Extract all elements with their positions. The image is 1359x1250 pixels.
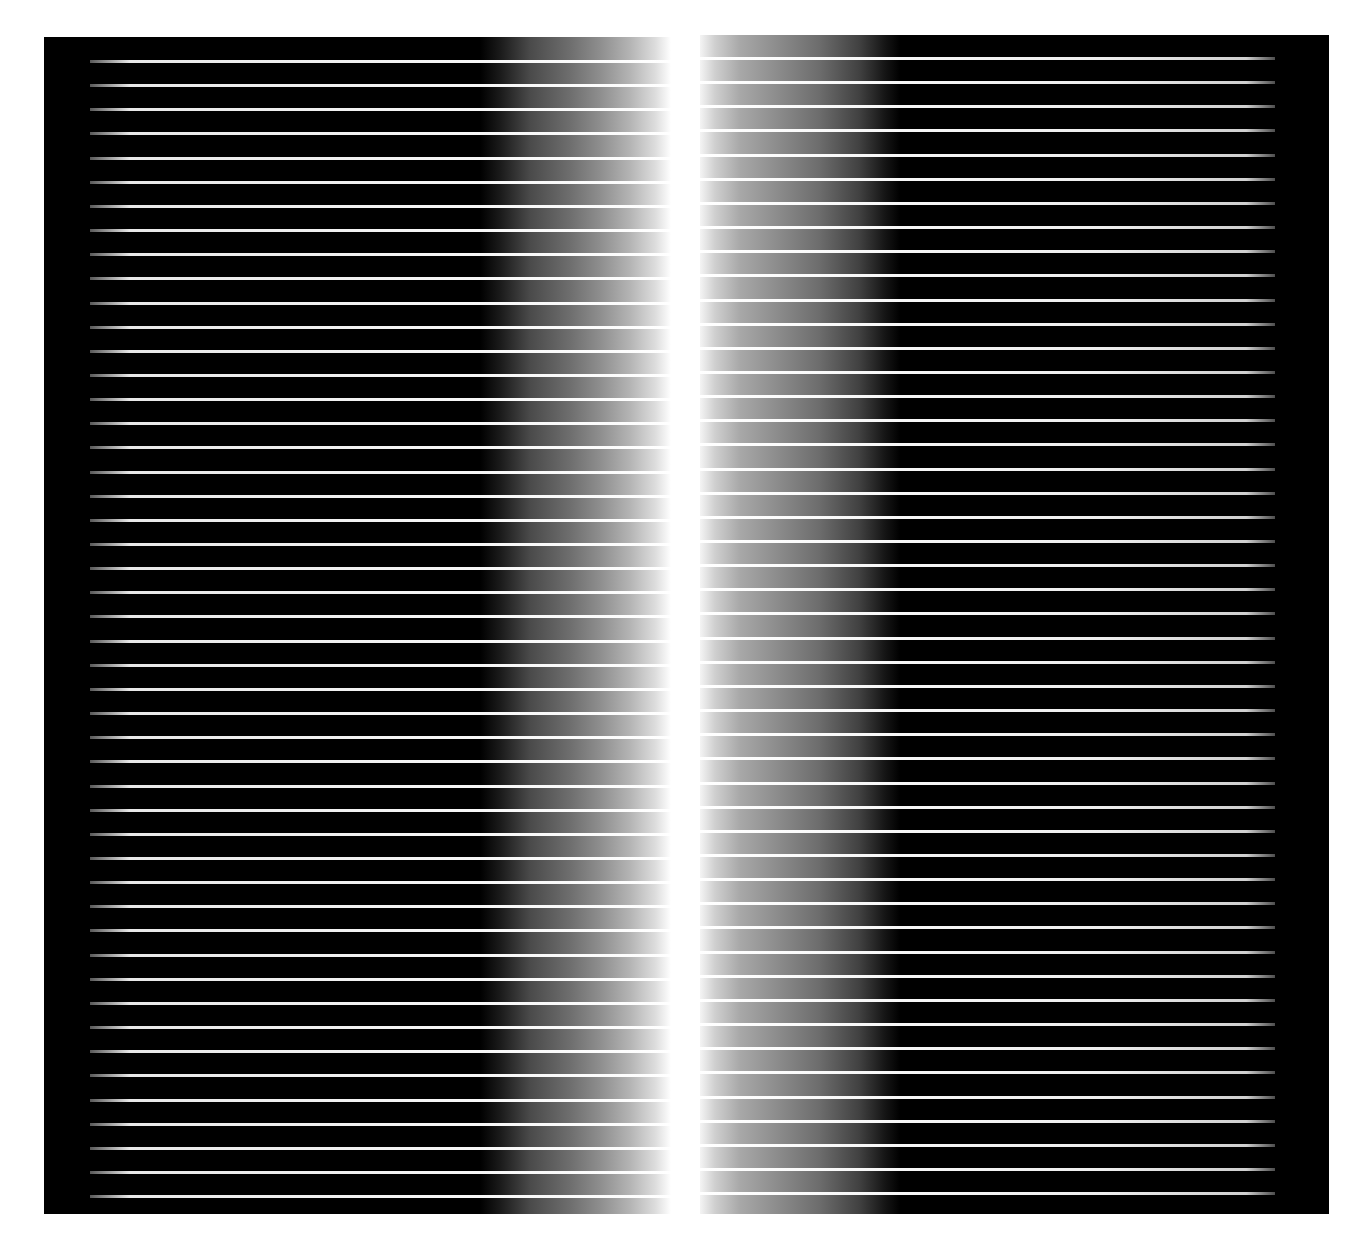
stripe-line — [700, 540, 1275, 543]
stripe-line — [90, 1171, 671, 1174]
stripe-line — [90, 640, 671, 643]
stripe-line — [90, 857, 671, 860]
stripe-line — [90, 350, 671, 353]
stripe-line — [90, 326, 671, 329]
stripe-line — [700, 154, 1275, 157]
stripe-line — [90, 471, 671, 474]
stripe-line — [90, 905, 671, 908]
stripe-line — [700, 105, 1275, 108]
stripe-line — [700, 588, 1275, 591]
stripe-line — [700, 999, 1275, 1002]
stripe-line — [90, 881, 671, 884]
stripe-line — [90, 495, 671, 498]
stripe-line — [700, 178, 1275, 181]
stripe-line — [700, 250, 1275, 253]
stripe-line — [90, 374, 671, 377]
stripe-line — [700, 1144, 1275, 1147]
stripe-line — [90, 1002, 671, 1005]
stripe-line — [700, 878, 1275, 881]
stripe-line — [700, 661, 1275, 664]
stripe-line — [90, 785, 671, 788]
stripe-line — [700, 1071, 1275, 1074]
stripe-line — [90, 519, 671, 522]
stripe-line — [90, 712, 671, 715]
stripe-line — [90, 809, 671, 812]
stripe-line — [90, 688, 671, 691]
stripe-line — [90, 1026, 671, 1029]
stripe-line — [700, 854, 1275, 857]
stripe-line — [90, 253, 671, 256]
stripe-line — [90, 108, 671, 111]
stripe-line — [700, 612, 1275, 615]
stripe-line — [700, 81, 1275, 84]
stripe-line — [700, 782, 1275, 785]
stripe-line — [700, 57, 1275, 60]
stripe-line — [90, 157, 671, 160]
stripe-line — [90, 181, 671, 184]
stripe-line — [700, 975, 1275, 978]
stripe-line — [90, 1074, 671, 1077]
left-striped-panel — [44, 37, 671, 1214]
stripe-line — [90, 1195, 671, 1198]
stripe-line — [700, 1047, 1275, 1050]
stripe-line — [90, 398, 671, 401]
stripe-line — [700, 637, 1275, 640]
stripe-line — [700, 926, 1275, 929]
right-striped-panel — [700, 35, 1329, 1214]
stripe-line — [90, 1099, 671, 1102]
stripe-line — [700, 395, 1275, 398]
stripe-line — [90, 736, 671, 739]
stripe-line — [90, 567, 671, 570]
stripe-line — [90, 543, 671, 546]
stripe-line — [700, 1192, 1275, 1195]
stripe-line — [90, 615, 671, 618]
stripe-line — [700, 419, 1275, 422]
stripe-line — [90, 446, 671, 449]
stripe-line — [700, 443, 1275, 446]
stripe-line — [90, 60, 671, 63]
stripe-line — [90, 954, 671, 957]
stripe-line — [90, 229, 671, 232]
stripe-line — [90, 277, 671, 280]
stripe-line — [700, 830, 1275, 833]
stripe-line — [700, 564, 1275, 567]
stripe-line — [90, 1123, 671, 1126]
stripe-line — [90, 978, 671, 981]
stripe-line — [700, 492, 1275, 495]
stripe-line — [700, 323, 1275, 326]
stripe-line — [700, 299, 1275, 302]
stripe-line — [700, 347, 1275, 350]
stripe-line — [700, 226, 1275, 229]
stripe-line — [700, 757, 1275, 760]
stripe-line — [700, 1096, 1275, 1099]
stripe-line — [90, 929, 671, 932]
stripe-line — [700, 951, 1275, 954]
stripe-line — [700, 709, 1275, 712]
stripe-line — [90, 302, 671, 305]
stripe-line — [700, 468, 1275, 471]
stripe-line — [700, 516, 1275, 519]
stripe-line — [700, 129, 1275, 132]
stripe-line — [700, 1120, 1275, 1123]
stripe-line — [700, 202, 1275, 205]
stripe-line — [90, 205, 671, 208]
stripe-line — [90, 664, 671, 667]
stripe-line — [700, 902, 1275, 905]
stripe-line — [700, 371, 1275, 374]
stripe-line — [90, 84, 671, 87]
stripe-line — [700, 685, 1275, 688]
stripe-line — [700, 1168, 1275, 1171]
stripe-line — [90, 422, 671, 425]
stripe-line — [90, 132, 671, 135]
stripe-line — [90, 760, 671, 763]
stripe-line — [90, 1050, 671, 1053]
stripe-line — [90, 591, 671, 594]
stripe-line — [700, 274, 1275, 277]
stripe-line — [700, 1023, 1275, 1026]
center-white-gap — [671, 30, 700, 1220]
stripe-line — [90, 1147, 671, 1150]
stripe-line — [90, 833, 671, 836]
stripe-line — [700, 806, 1275, 809]
stripe-line — [700, 733, 1275, 736]
